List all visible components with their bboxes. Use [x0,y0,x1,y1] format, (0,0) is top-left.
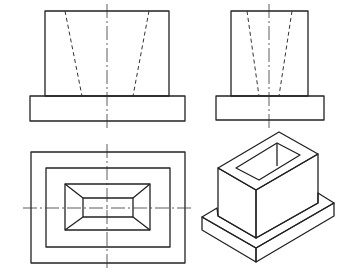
iso-base-top [202,193,334,248]
side-hidden-line-right [279,11,292,96]
side-hidden-line-left [247,11,259,96]
top-view [23,144,193,271]
top-hole-edge-bl [65,217,83,230]
front-hidden-line-right [133,11,149,96]
front-view [30,4,185,128]
front-hidden-line-left [65,11,82,96]
technical-drawing [0,0,345,279]
side-base-outline [216,96,324,120]
iso-base-front-right [256,203,334,262]
top-hole-outer [65,184,150,230]
top-hole-edge-tr [133,184,150,198]
side-body-outline [231,11,308,96]
side-view [216,4,324,128]
iso-base-front-left [202,217,256,262]
iso-body-top-face [218,132,318,190]
iso-hole-opening [236,143,300,180]
isometric-view [202,132,334,262]
iso-body-right-face [256,154,318,238]
top-hole-inner [83,198,133,217]
top-hole-edge-tl [65,184,83,198]
front-base-outline [30,96,185,121]
top-hole-edge-br [133,217,150,230]
